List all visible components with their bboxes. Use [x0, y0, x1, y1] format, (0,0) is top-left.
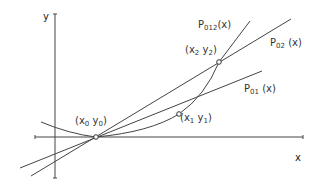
curve-label-p02: P02 (x) — [270, 38, 302, 48]
point-label-x2-y2: (x2 y2) — [185, 45, 217, 55]
point-label-x1-y1: (x1 y1) — [180, 113, 212, 123]
point-x0-y0 — [94, 135, 99, 140]
p01-line — [20, 71, 262, 168]
p012-curve — [41, 21, 250, 137]
point-label-x0-y0: (x0 y0) — [75, 116, 107, 126]
curve-label-p01: P01 (x) — [244, 84, 276, 94]
y-axis-label: y — [43, 12, 49, 22]
p02-line — [31, 19, 291, 176]
x-axis-label: x — [295, 153, 301, 163]
curve-label-p012: P012(x) — [198, 20, 231, 30]
point-x2-y2 — [217, 60, 222, 65]
